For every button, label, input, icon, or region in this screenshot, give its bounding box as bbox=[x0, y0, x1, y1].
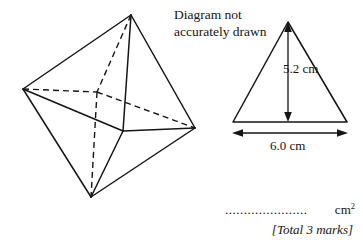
edge-right-bottom bbox=[91, 128, 195, 197]
answer-units-text: cm bbox=[335, 202, 351, 217]
answer-units-label: cm2 bbox=[332, 202, 355, 218]
total-marks-label: [Total 3 marks] bbox=[0, 222, 353, 238]
answer-units-exponent: 2 bbox=[351, 201, 355, 211]
edge-back-right bbox=[97, 92, 195, 128]
octahedron-solid-edges bbox=[23, 15, 195, 197]
octahedron-group bbox=[23, 15, 195, 197]
base-arrow bbox=[232, 129, 348, 137]
answer-dotted-line[interactable]: ...................... bbox=[225, 203, 332, 217]
edge-left-back bbox=[23, 89, 97, 92]
edge-left-bottom bbox=[23, 89, 91, 197]
base-dimension-label: 6.0 cm bbox=[270, 138, 305, 154]
height-arrowhead-down bbox=[284, 112, 292, 122]
diagram-note: Diagram not accurately drawn bbox=[174, 6, 294, 40]
octahedron-dashed-edges bbox=[23, 15, 195, 197]
base-arrowhead-left bbox=[232, 129, 243, 137]
edge-back-bottom bbox=[91, 92, 97, 197]
question-figure-page: Diagram not accurately drawn 5.2 cm 6.0 … bbox=[0, 0, 363, 245]
edge-front-right bbox=[123, 128, 195, 131]
base-arrowhead-right bbox=[337, 129, 348, 137]
edge-top-front bbox=[123, 15, 131, 131]
height-dimension-label: 5.2 cm bbox=[283, 61, 318, 77]
answer-line-row: ...................... cm2 bbox=[225, 200, 355, 218]
